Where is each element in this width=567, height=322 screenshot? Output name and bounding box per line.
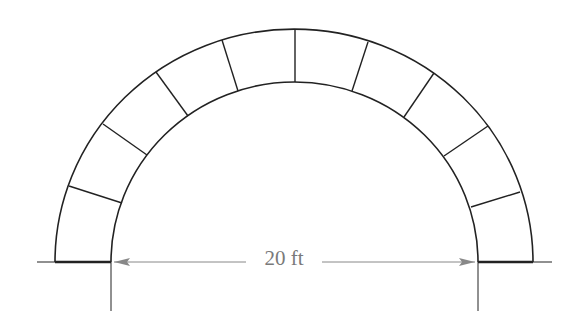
span-dimension-label: 20 ft [246,246,322,270]
arch-inner-curve [111,82,478,262]
joint [444,126,488,156]
arch [55,29,533,262]
joint [471,192,520,207]
voussoir-joints [69,29,520,207]
joint [222,40,238,91]
joint [404,73,434,117]
joint [352,42,368,91]
arch-diagram [0,0,567,322]
joint [103,124,147,155]
joint [69,186,122,203]
arch-outer-curve [55,29,533,262]
joint [156,72,188,116]
